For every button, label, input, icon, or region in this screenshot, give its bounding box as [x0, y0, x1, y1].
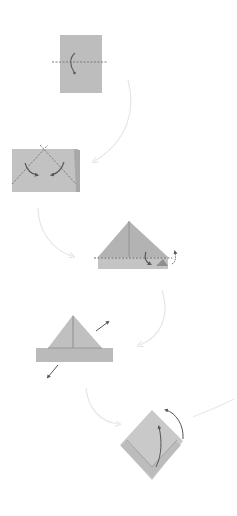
step-5	[120, 410, 183, 480]
step-4	[36, 315, 113, 377]
paper-front	[12, 149, 78, 192]
step-2	[12, 145, 80, 192]
fold-arrow-tip-icon	[73, 72, 76, 75]
step-1	[52, 35, 108, 93]
paper-triangle	[48, 315, 102, 348]
pull-arrow-down-left-icon	[48, 365, 58, 377]
connector-arrow-5-next	[193, 399, 234, 417]
paper-band	[36, 348, 113, 362]
paper-band	[98, 257, 168, 269]
paper-sheet	[60, 35, 102, 93]
step-3	[94, 221, 176, 269]
pull-arrow-up-right-icon	[96, 322, 108, 331]
fold-arrow-back-icon	[172, 252, 176, 264]
origami-diagram	[0, 0, 237, 516]
paper-triangle	[98, 221, 168, 257]
connector-arrow-2-3	[38, 208, 72, 256]
connector-arrow-4-5	[86, 388, 118, 424]
connector-arrow-3-4	[140, 290, 165, 345]
